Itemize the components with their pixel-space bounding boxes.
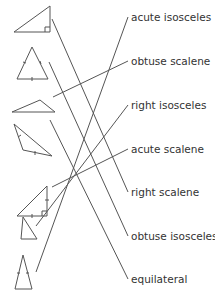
classification-label[interactable]: acute isosceles: [131, 11, 211, 23]
connector-line[interactable]: [53, 61, 128, 97]
classification-label[interactable]: equilateral: [131, 273, 187, 285]
tick-mark: [23, 62, 26, 63]
classification-label[interactable]: obtuse isosceles: [131, 230, 215, 242]
classification-label[interactable]: right isosceles: [131, 99, 206, 111]
connector-line[interactable]: [52, 19, 128, 192]
classification-label[interactable]: obtuse scalene: [131, 55, 210, 67]
connector-line[interactable]: [36, 105, 128, 226]
classification-label[interactable]: right scalene: [131, 186, 199, 198]
obtuse-scalene-triangle[interactable]: [12, 100, 55, 112]
right-angle-mark: [45, 27, 50, 32]
isosceles-acute-triangle[interactable]: [17, 47, 48, 79]
equilateral-triangle[interactable]: [15, 255, 32, 289]
classification-label[interactable]: acute scalene: [131, 143, 204, 155]
connector-line[interactable]: [49, 62, 128, 236]
acute-scalene-triangle[interactable]: [21, 217, 37, 239]
connector-line[interactable]: [36, 17, 128, 272]
obtuse-isosceles-triangle[interactable]: [14, 124, 52, 156]
